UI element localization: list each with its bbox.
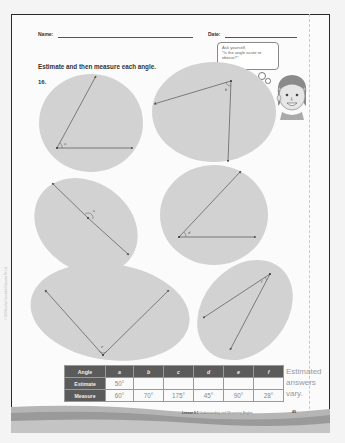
measure-cell-a[interactable]: 60° — [106, 390, 134, 402]
header-cell: b — [134, 366, 164, 378]
lesson-title: Understanding and Measuring Angles — [199, 411, 252, 415]
note-line-1: Estimated — [286, 366, 322, 377]
header-cell: d — [194, 366, 224, 378]
measure-cell-f[interactable]: 28° — [254, 390, 284, 402]
estimate-cell-f[interactable] — [254, 378, 284, 390]
estimate-cell-a[interactable]: 50° — [106, 378, 134, 390]
estimate-cell-e[interactable] — [224, 378, 254, 390]
note-line-3: vary. — [286, 388, 322, 399]
table-row-estimate: Estimate 50° — [65, 378, 284, 390]
row-label: Estimate — [65, 378, 106, 390]
svg-text:c: c — [93, 208, 95, 213]
answer-note: Estimated answers vary. — [286, 366, 322, 400]
figure-b: b — [152, 62, 276, 162]
header-cell: e — [224, 366, 254, 378]
estimate-cell-b[interactable] — [134, 378, 164, 390]
estimate-cell-c[interactable] — [164, 378, 194, 390]
measure-cell-c[interactable]: 175° — [164, 390, 194, 402]
table-header-row: Angle a b c d e f — [65, 366, 284, 378]
lesson-number: Lesson 9.1 — [182, 411, 198, 415]
measure-cell-d[interactable]: 45° — [194, 390, 224, 402]
figure-d: d — [160, 165, 268, 265]
header-cell: f — [254, 366, 284, 378]
figure-a: a — [39, 74, 143, 172]
copyright-note: © 2020 Marshall Cavendish Education Pte … — [5, 267, 8, 320]
note-line-2: answers — [286, 377, 322, 388]
header-cell: Angle — [65, 366, 106, 378]
footer-wave-decoration — [11, 405, 330, 433]
figure-e: e — [24, 253, 196, 370]
measure-cell-e[interactable]: 90° — [224, 390, 254, 402]
header-cell: c — [164, 366, 194, 378]
footer-lesson: Lesson 9.1 Understanding and Measuring A… — [182, 411, 253, 415]
header-cell: a — [106, 366, 134, 378]
table-row-measure: Measure 60° 70° 175° 45° 90° 28° — [65, 390, 284, 402]
row-label: Measure — [65, 390, 106, 402]
measure-cell-b[interactable]: 70° — [134, 390, 164, 402]
estimate-cell-d[interactable] — [194, 378, 224, 390]
angle-table: Angle a b c d e f Estimate 50° Measure 6… — [64, 365, 284, 402]
page-number: 49 — [292, 410, 296, 414]
